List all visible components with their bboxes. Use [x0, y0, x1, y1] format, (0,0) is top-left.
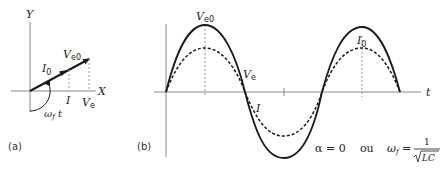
voltage-phasor [30, 59, 89, 91]
proj-current-label: I [65, 94, 71, 107]
x-axis-label: X [97, 85, 107, 98]
curve-current-label: I [255, 102, 261, 115]
panel-b-tag: (b) [137, 141, 151, 152]
vector-voltage-label: Ve0 [63, 48, 81, 62]
condition-omega: ωf = [387, 142, 411, 156]
phasor-diagram: Y X I0 Ve0 I Ve ωf t (a) (b) t [0, 0, 445, 169]
y-axis-label: Y [26, 8, 35, 21]
angle-label: ωf t [44, 108, 63, 121]
fraction-numerator: 1 [424, 137, 430, 147]
vector-current-label: I0 [41, 62, 51, 77]
panel-a: Y X I0 Ve0 I Ve ωf t (a) [8, 8, 107, 152]
proj-voltage-label: Ve [82, 96, 95, 110]
panel-b: (b) t Ve0 I0 Ve I α = 0 ou ωf = 1 [137, 10, 440, 163]
conjunction-ou: ou [360, 142, 374, 155]
peak-current-label: I0 [356, 34, 366, 49]
t-axis-label: t [426, 86, 431, 99]
peak-voltage-label: Ve0 [196, 10, 214, 24]
condition-alpha: α = 0 [315, 142, 346, 155]
panel-a-tag: (a) [8, 141, 22, 152]
curve-voltage-label: Ve [243, 68, 256, 82]
fraction-denominator: LC [421, 153, 435, 163]
